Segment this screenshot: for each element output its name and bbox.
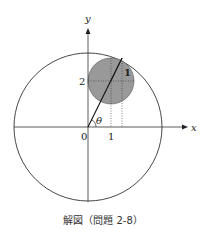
y-tick-label-2: 2	[79, 76, 85, 87]
diagram-canvas: y x 0 1 2 θ 1	[0, 0, 206, 232]
x-axis-label: x	[191, 122, 197, 133]
y-axis-arrow-icon	[86, 28, 91, 34]
x-tick-label-1: 1	[108, 131, 114, 142]
figure-caption: 解図（問題 2-8）	[0, 212, 206, 227]
theta-label: θ	[96, 115, 102, 126]
radius-label: 1	[124, 67, 131, 78]
x-axis-arrow-icon	[182, 125, 188, 130]
y-axis-label: y	[84, 13, 91, 24]
origin-label: 0	[81, 131, 87, 142]
